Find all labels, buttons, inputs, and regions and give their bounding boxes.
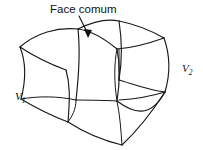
common-face-bottom-edge [76,100,117,101]
left-cell-back-vertical-edge [76,29,79,100]
right-cell-top-ridge-edge [119,21,164,38]
right-cell-right-vertical-edge [164,38,169,92]
left-cell-top-back-edge [20,29,78,47]
left-cell-top-front-edge [20,47,66,70]
two-control-volumes-diagram: Face comum V1 V2 [0,0,203,150]
right-cell-bottom-front-edge [117,92,165,111]
right-cell-interior-vertical-edge [115,49,117,101]
shared-bottom-long-edge [122,92,165,145]
right-volume-label: V2 [182,62,193,77]
common-face-bottom-front-connector [117,101,122,145]
right-volume-subscript: 2 [189,68,193,77]
callout-arrow-head [84,29,92,38]
common-face-callout-label: Face comum [50,3,116,15]
right-cell-front-face-curve [119,80,165,92]
right-cell-top-front-edge [117,38,164,49]
figure-container: Face comum V1 V2 [0,0,203,150]
common-face-top-edge [78,29,117,49]
right-cell-top-back-edge [78,20,119,29]
left-cell-front-vertical-edge [66,70,69,122]
left-cell-bottom-back-edge [21,97,76,100]
left-cell-bottom-left-edge [21,99,68,122]
left-cell-bottom-front-edge [68,122,122,145]
left-volume-label: V1 [15,90,25,105]
left-volume-subscript: 1 [22,96,26,105]
right-cell-bottom-right-edge [119,92,165,100]
